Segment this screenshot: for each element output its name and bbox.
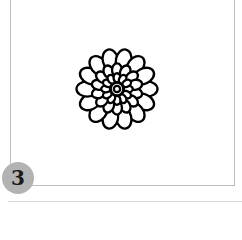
bottom-divider xyxy=(8,201,242,202)
step-number: 3 xyxy=(11,168,25,188)
flower-icon xyxy=(72,44,162,134)
flower-center-inner xyxy=(114,86,120,92)
step-number-badge: 3 xyxy=(2,162,34,194)
